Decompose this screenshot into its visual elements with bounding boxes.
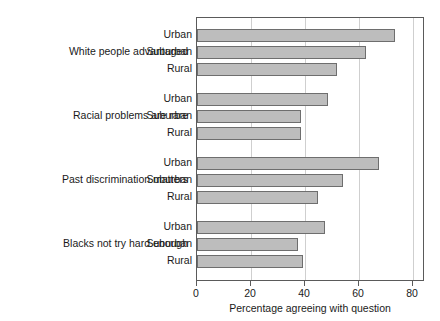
bar-1-2 <box>197 127 301 140</box>
x-tick-20 <box>250 281 251 286</box>
bar-3-0 <box>197 221 325 234</box>
x-tick-label-80: 80 <box>392 287 432 299</box>
bar-tick-label-1-0: Urban <box>102 92 192 105</box>
x-tick-label-40: 40 <box>284 287 324 299</box>
bar-tick-label-0-0: Urban <box>102 28 192 41</box>
bar-0-1 <box>197 46 366 59</box>
bar-1-1 <box>197 110 301 123</box>
bar-2-0 <box>197 157 379 170</box>
x-tick-label-0: 0 <box>176 287 216 299</box>
group-label-0: White people advantaged <box>0 46 188 57</box>
bar-2-2 <box>197 191 318 204</box>
x-axis-title: Percentage agreeing with question <box>196 302 424 314</box>
bar-tick-label-0-2: Rural <box>102 62 192 75</box>
bar-2-1 <box>197 174 343 187</box>
bar-tick-label-1-2: Rural <box>102 126 192 139</box>
x-tick-0 <box>196 281 197 286</box>
bar-tick-label-3-0: Urban <box>102 220 192 233</box>
x-tick-label-20: 20 <box>230 287 270 299</box>
x-tick-60 <box>358 281 359 286</box>
bar-tick-label-2-0: Urban <box>102 156 192 169</box>
plot-area <box>196 17 424 281</box>
x-tick-label-60: 60 <box>338 287 378 299</box>
bar-tick-label-3-2: Rural <box>102 254 192 267</box>
bar-chart-figure: 020406080 Percentage agreeing with quest… <box>0 0 440 321</box>
bar-3-2 <box>197 255 303 268</box>
x-tick-40 <box>304 281 305 286</box>
group-label-1: Racial problems are rare <box>0 110 188 121</box>
bar-3-1 <box>197 238 298 251</box>
bar-0-2 <box>197 63 337 76</box>
bar-tick-label-2-2: Rural <box>102 190 192 203</box>
group-label-2: Past discrimination matters <box>0 174 188 185</box>
gridline-80 <box>413 18 414 280</box>
group-label-3: Blacks not try hard enough <box>0 238 188 249</box>
x-tick-80 <box>412 281 413 286</box>
bar-1-0 <box>197 93 328 106</box>
bar-0-0 <box>197 29 395 42</box>
